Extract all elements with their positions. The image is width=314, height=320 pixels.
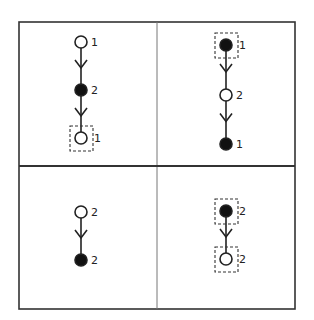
filled-circle-icon — [220, 205, 232, 217]
panels: 1211212222 — [70, 33, 246, 272]
node-label: 2 — [239, 253, 246, 266]
filled-circle-icon — [75, 84, 87, 96]
chain-diagram: 1211212222 — [0, 0, 314, 320]
edge-arrow — [75, 96, 87, 132]
hollow-node: 2 — [75, 206, 98, 219]
hollow-circle-icon — [220, 89, 232, 101]
panel-top-right: 121 — [215, 33, 246, 151]
filled-circle-icon — [220, 39, 232, 51]
panel-grid-frame — [19, 22, 295, 309]
edge-arrow — [220, 217, 232, 253]
edge-arrow — [75, 48, 87, 84]
node-label: 1 — [94, 132, 101, 145]
hollow-circle-icon — [75, 132, 87, 144]
filled-node: 2 — [215, 199, 246, 224]
edge-arrow — [75, 218, 87, 254]
filled-node: 1 — [220, 138, 243, 151]
filled-node: 2 — [75, 254, 98, 267]
hollow-node: 2 — [215, 247, 246, 272]
node-label: 1 — [91, 36, 98, 49]
node-label: 1 — [239, 39, 246, 52]
node-label: 2 — [91, 206, 98, 219]
edge-arrow — [220, 101, 232, 138]
hollow-node: 1 — [75, 36, 98, 49]
filled-circle-icon — [220, 138, 232, 150]
panel-top-left: 121 — [70, 36, 101, 151]
hollow-circle-icon — [75, 36, 87, 48]
panel-bottom-left: 22 — [75, 206, 98, 267]
filled-node: 1 — [215, 33, 246, 58]
hollow-node: 2 — [220, 89, 243, 102]
node-label: 2 — [91, 84, 98, 97]
node-label: 2 — [239, 205, 246, 218]
filled-circle-icon — [75, 254, 87, 266]
hollow-circle-icon — [220, 253, 232, 265]
node-label: 1 — [236, 138, 243, 151]
node-label: 2 — [236, 89, 243, 102]
panel-bottom-right: 22 — [215, 199, 246, 272]
node-label: 2 — [91, 254, 98, 267]
filled-node: 2 — [75, 84, 98, 97]
hollow-node: 1 — [70, 126, 101, 151]
edge-arrow — [220, 51, 232, 89]
hollow-circle-icon — [75, 206, 87, 218]
